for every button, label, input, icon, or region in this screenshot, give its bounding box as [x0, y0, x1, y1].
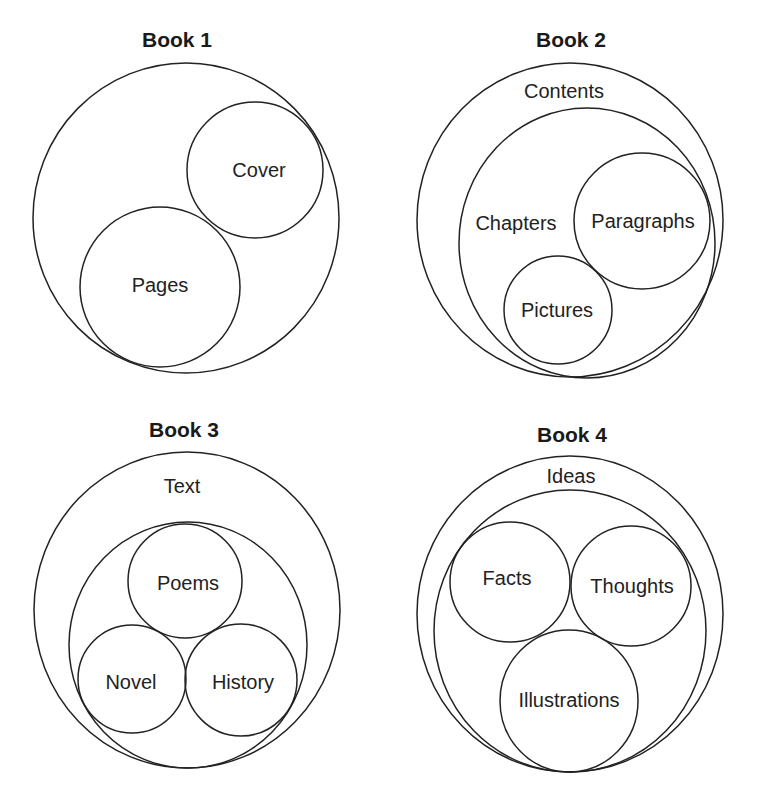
ideas-circle [417, 456, 723, 772]
book-1-diagram: Book 1 Cover Pages [33, 28, 339, 373]
novel-label: Novel [105, 671, 156, 693]
book-4-title: Book 4 [537, 423, 607, 446]
contents-label: Contents [524, 80, 604, 102]
book-4-diagram: Book 4 Ideas Facts Thoughts Illustration… [417, 423, 723, 772]
book-1-outer-circle [33, 63, 339, 373]
poems-label: Poems [157, 572, 219, 594]
thoughts-label: Thoughts [590, 575, 673, 597]
book-3-diagram: Book 3 Text Poems Novel History [34, 418, 340, 768]
history-label: History [212, 671, 274, 693]
text-circle [34, 452, 340, 768]
cover-label: Cover [232, 159, 286, 181]
book-diagrams: Book 1 Cover Pages Book 2 Contents Chapt… [0, 0, 760, 801]
book-2-diagram: Book 2 Contents Chapters Paragraphs Pict… [417, 28, 723, 378]
book-3-title: Book 3 [149, 418, 219, 441]
pages-label: Pages [132, 274, 189, 296]
paragraphs-label: Paragraphs [591, 210, 694, 232]
book-3-inner-circle [69, 522, 307, 768]
chapters-circle [459, 108, 715, 378]
book-2-title: Book 2 [536, 28, 606, 51]
chapters-label: Chapters [475, 212, 556, 234]
pictures-label: Pictures [521, 299, 593, 321]
facts-label: Facts [483, 567, 532, 589]
book-1-title: Book 1 [142, 28, 212, 51]
text-label: Text [164, 475, 201, 497]
illustrations-label: Illustrations [518, 689, 619, 711]
ideas-label: Ideas [547, 465, 596, 487]
